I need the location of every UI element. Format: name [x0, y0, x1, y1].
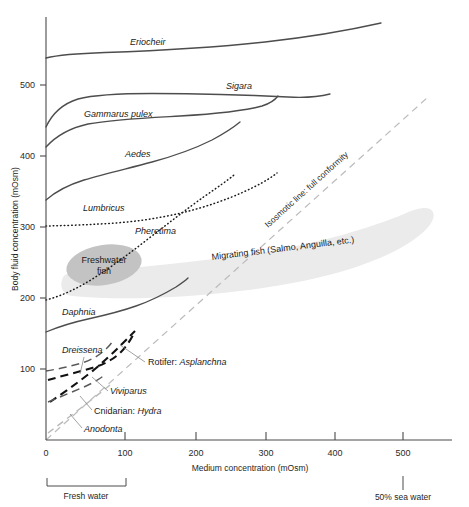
- label-viviparus: Viviparus: [110, 386, 147, 396]
- osmoregulation-chart: 500 400 300 200 100 0 100 200 300 400 50…: [0, 0, 469, 507]
- x-tick-label-400: 400: [327, 448, 342, 458]
- y-tick-label-500: 500: [20, 80, 35, 90]
- label-eriocheir: Eriocheir: [130, 37, 167, 47]
- freshwater-fish-label-line1: Freshwater: [81, 255, 126, 265]
- rotifer-genus: Asplanchna: [179, 357, 227, 367]
- x-tick-label-0: 0: [43, 448, 48, 458]
- fresh-water-bracket-label: Fresh water: [64, 491, 109, 501]
- chart-canvas: 500 400 300 200 100 0 100 200 300 400 50…: [0, 0, 469, 507]
- label-anodonta: Anodonta: [83, 424, 123, 434]
- y-tick-label-200: 200: [20, 293, 35, 303]
- curve-viviparus: [46, 339, 114, 371]
- x-axis-title: Medium concentration (mOsm): [192, 463, 309, 473]
- freshwater-fish-label-line2: fish: [97, 266, 111, 276]
- rotifer-prefix: Rotifer:: [148, 357, 180, 367]
- curve-eriocheir: [46, 23, 381, 58]
- cnidarian-genus: Hydra: [138, 406, 162, 416]
- y-tick-label-100: 100: [20, 364, 35, 374]
- label-aedes: Aedes: [124, 149, 151, 159]
- curve-aedes: [46, 122, 240, 200]
- fresh-water-bracket: [47, 478, 126, 486]
- y-tick-label-300: 300: [20, 222, 35, 232]
- label-lumbricus: Lumbricus: [83, 203, 125, 213]
- label-cnidarian-hydra: Cnidarian: Hydra: [94, 406, 162, 416]
- label-rotifer-asplanchna: Rotifer: Asplanchna: [148, 357, 227, 367]
- curve-gammarus: [46, 96, 278, 147]
- y-axis-title: Body fluid concentration (mOsm): [10, 167, 20, 291]
- x-tick-label-300: 300: [258, 448, 273, 458]
- label-sigara: Sigara: [226, 81, 252, 91]
- cnidarian-prefix: Cnidarian:: [94, 406, 138, 416]
- curve-cnidarian-hydra: [48, 374, 106, 402]
- label-pheretima: Pheretima: [135, 226, 176, 236]
- fresh-water-bracket-group: Fresh water: [47, 478, 126, 501]
- y-tick-label-400: 400: [20, 151, 35, 161]
- leader-rotifer: [120, 345, 145, 362]
- sea-water-note-label: 50% sea water: [375, 492, 431, 502]
- leader-dreissena: [80, 357, 84, 374]
- sea-water-note-group: 50% sea water: [375, 476, 431, 502]
- isosmotic-line-label: Isosmotic line: full conformity: [263, 149, 351, 230]
- x-tick-label-200: 200: [188, 448, 203, 458]
- x-tick-label-100: 100: [117, 448, 132, 458]
- x-tick-label-500: 500: [395, 448, 410, 458]
- leader-anodonta: [70, 414, 82, 428]
- label-gammarus-pulex: Gammarus pulex: [84, 109, 153, 119]
- species-curves: [46, 23, 381, 433]
- label-dreissena: Dreissena: [62, 345, 103, 355]
- label-daphnia: Daphnia: [62, 307, 96, 317]
